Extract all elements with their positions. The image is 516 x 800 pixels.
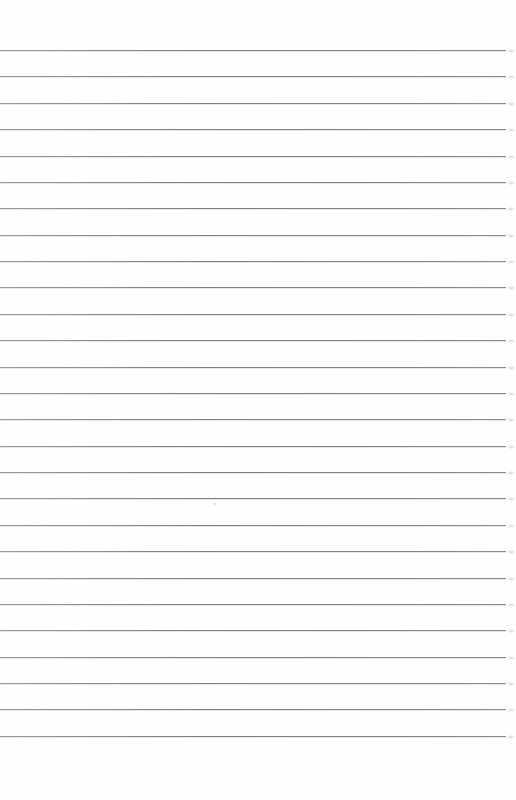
ruled-line (0, 604, 506, 605)
ruled-line (0, 498, 506, 499)
ruled-line (0, 314, 506, 315)
ruled-line (0, 683, 506, 684)
ruled-line (0, 736, 506, 737)
line-end-shadow (507, 260, 515, 264)
ruled-line (0, 657, 506, 658)
line-end-shadow (507, 155, 515, 159)
line-end-shadow (507, 392, 515, 396)
ruled-line (0, 287, 506, 288)
ruled-line (0, 630, 506, 631)
line-end-shadow (507, 366, 515, 370)
line-end-shadow (507, 603, 515, 607)
ruled-line (0, 525, 506, 526)
ruled-line (0, 156, 506, 157)
ruled-line (0, 235, 506, 236)
ruled-line (0, 472, 506, 473)
line-end-shadow (507, 313, 515, 317)
line-end-shadow (507, 75, 515, 79)
ruled-line (0, 208, 506, 209)
line-end-shadow (507, 550, 515, 554)
line-end-shadow (507, 181, 515, 185)
line-end-shadow (507, 577, 515, 581)
line-end-shadow (507, 102, 515, 106)
line-end-shadow (507, 49, 515, 53)
line-end-shadow (507, 445, 515, 449)
paper-speck (214, 503, 216, 505)
ruled-line (0, 393, 506, 394)
ruled-line (0, 129, 506, 130)
ruled-line (0, 103, 506, 104)
line-end-shadow (507, 418, 515, 422)
line-end-shadow (507, 471, 515, 475)
line-end-shadow (507, 286, 515, 290)
ruled-line (0, 551, 506, 552)
ruled-line (0, 367, 506, 368)
ruled-line (0, 446, 506, 447)
line-end-shadow (507, 656, 515, 660)
ruled-line (0, 50, 506, 51)
ruled-line (0, 261, 506, 262)
ruled-line (0, 340, 506, 341)
line-end-shadow (507, 708, 515, 712)
line-end-shadow (507, 128, 515, 132)
lined-paper-page (0, 0, 516, 800)
line-end-shadow (507, 629, 515, 633)
line-end-shadow (507, 234, 515, 238)
ruled-line (0, 419, 506, 420)
line-end-shadow (507, 497, 515, 501)
line-end-shadow (507, 339, 515, 343)
ruled-line (0, 709, 506, 710)
line-end-shadow (507, 735, 515, 739)
ruled-line (0, 76, 506, 77)
ruled-line (0, 578, 506, 579)
line-end-shadow (507, 682, 515, 686)
line-end-shadow (507, 524, 515, 528)
line-end-shadow (507, 207, 515, 211)
ruled-line (0, 182, 506, 183)
